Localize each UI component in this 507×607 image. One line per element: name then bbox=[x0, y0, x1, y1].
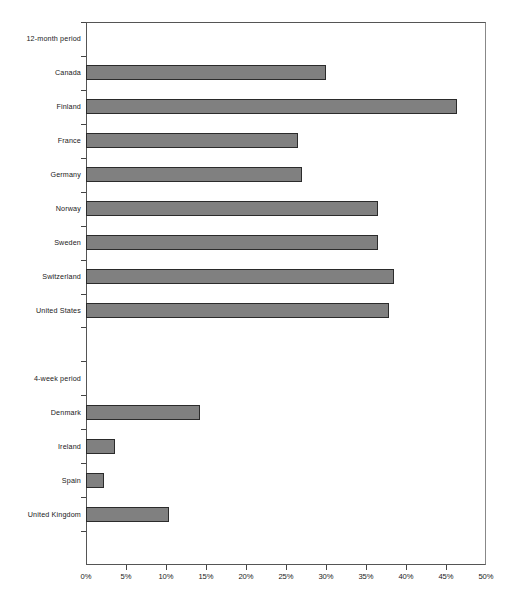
x-axis-tick bbox=[166, 565, 167, 570]
y-axis-tick bbox=[81, 22, 86, 23]
category-label: Germany bbox=[50, 170, 81, 179]
y-axis-tick bbox=[81, 463, 86, 464]
category-label: Denmark bbox=[51, 408, 81, 417]
y-axis-tick bbox=[81, 497, 86, 498]
category-label: Norway bbox=[56, 204, 81, 213]
x-axis-tick bbox=[446, 565, 447, 570]
x-axis-tick bbox=[246, 565, 247, 570]
category-label: France bbox=[58, 136, 81, 145]
category-label: United Kingdom bbox=[28, 510, 81, 519]
bar bbox=[86, 439, 115, 454]
x-axis-tick bbox=[126, 565, 127, 570]
x-axis-tick-label: 15% bbox=[198, 572, 213, 581]
category-label: Spain bbox=[62, 476, 81, 485]
bar bbox=[86, 65, 326, 80]
x-axis-tick bbox=[366, 565, 367, 570]
y-axis-tick bbox=[81, 260, 86, 261]
y-axis-tick bbox=[81, 90, 86, 91]
bar bbox=[86, 235, 378, 250]
x-axis-tick bbox=[206, 565, 207, 570]
bar-chart: 12-month periodCanadaFinlandFranceGerman… bbox=[0, 0, 507, 607]
y-axis-tick bbox=[81, 124, 86, 125]
category-label: Finland bbox=[56, 102, 81, 111]
x-axis-tick bbox=[286, 565, 287, 570]
category-label: Canada bbox=[55, 68, 81, 77]
x-axis-tick-label: 45% bbox=[438, 572, 453, 581]
x-axis-tick-label: 5% bbox=[121, 572, 132, 581]
y-axis-tick bbox=[81, 361, 86, 362]
x-axis-tick bbox=[406, 565, 407, 570]
category-label: Ireland bbox=[58, 442, 81, 451]
y-axis-tick bbox=[81, 56, 86, 57]
bar bbox=[86, 303, 389, 318]
x-axis-tick-label: 25% bbox=[278, 572, 293, 581]
y-axis-tick bbox=[81, 294, 86, 295]
x-axis-tick-label: 20% bbox=[238, 572, 253, 581]
y-axis-tick bbox=[81, 158, 86, 159]
x-axis-tick-label: 0% bbox=[81, 572, 92, 581]
category-label: Sweden bbox=[54, 238, 81, 247]
x-axis-tick-label: 35% bbox=[358, 572, 373, 581]
group-header-label: 12-month period bbox=[26, 34, 81, 43]
y-axis-tick bbox=[81, 226, 86, 227]
x-axis-tick-label: 50% bbox=[478, 572, 493, 581]
bar bbox=[86, 507, 169, 522]
x-axis-tick-label: 30% bbox=[318, 572, 333, 581]
y-axis-tick bbox=[81, 429, 86, 430]
x-axis-tick-label: 40% bbox=[398, 572, 413, 581]
bar bbox=[86, 405, 200, 420]
y-axis-tick bbox=[81, 327, 86, 328]
x-axis-tick bbox=[326, 565, 327, 570]
category-label: United States bbox=[36, 306, 81, 315]
bar bbox=[86, 201, 378, 216]
x-axis-tick-label: 10% bbox=[158, 572, 173, 581]
bar bbox=[86, 133, 298, 148]
group-header-label: 4-week period bbox=[34, 374, 81, 383]
bar bbox=[86, 99, 457, 114]
y-axis-tick bbox=[81, 192, 86, 193]
bar bbox=[86, 473, 104, 488]
bar bbox=[86, 167, 302, 182]
category-label: Switzerland bbox=[42, 272, 81, 281]
y-axis-tick bbox=[81, 531, 86, 532]
y-axis-tick bbox=[81, 395, 86, 396]
bar bbox=[86, 269, 394, 284]
